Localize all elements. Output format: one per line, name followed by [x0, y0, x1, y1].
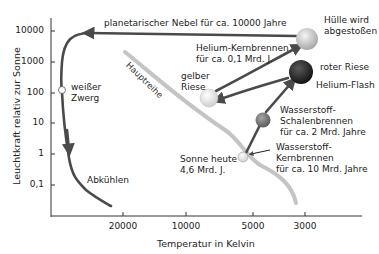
x-axis-title: Temperatur in Kelvin [157, 238, 255, 249]
label-hydrogen-shell: Wasserstoff- Schalenbrennen für ca. 2 Mr… [280, 105, 366, 138]
label-yellow-giant: gelber Riese [181, 71, 210, 93]
label-hydrogen-core: Wasserstoff- Kernbrennen für ca. 10 Mrd.… [276, 142, 368, 175]
x-tick-20000: 20000 [103, 221, 143, 231]
x-tick-10000: 10000 [166, 221, 206, 231]
x-tick-3000: 3000 [285, 221, 325, 231]
star-hydrogen-shell [256, 113, 271, 128]
label-cooling: Abkühlen [87, 175, 129, 186]
star-white-dwarf [59, 87, 66, 94]
label-helium-flash: Helium-Flash [316, 80, 375, 91]
hr-diagram: 10000 1000 100 10 1 0,1 20000 10000 5000… [0, 0, 379, 254]
y-tick-10000: 10000 [8, 25, 44, 35]
star-envelope-ejected [296, 28, 318, 50]
label-red-giant: roter Riese [320, 62, 369, 73]
label-envelope-ejected: Hülle wird abgestoßen [324, 15, 377, 37]
label-planetary-nebula: planetarischer Nebel für ca. 10000 Jahre [104, 18, 287, 29]
x-axis [51, 212, 362, 216]
label-helium-core: Helium-Kernbrennen für ca. 0,1 Mrd. J. [196, 43, 289, 65]
track-red-giant-to-yellow [218, 78, 288, 100]
star-sun-today [238, 152, 248, 162]
main-sequence-band [125, 52, 296, 203]
y-axis-title: Leuchtkraft relativ zur Sonne [11, 47, 22, 185]
label-sun-today: Sonne heute 4,6 Mrd. J. [180, 154, 237, 176]
star-red-giant [289, 60, 313, 84]
track-planetary-nebula [88, 33, 296, 36]
label-white-dwarf: weißer Zwerg [71, 82, 101, 104]
x-tick-5000: 5000 [233, 221, 273, 231]
y-axis [51, 18, 55, 217]
